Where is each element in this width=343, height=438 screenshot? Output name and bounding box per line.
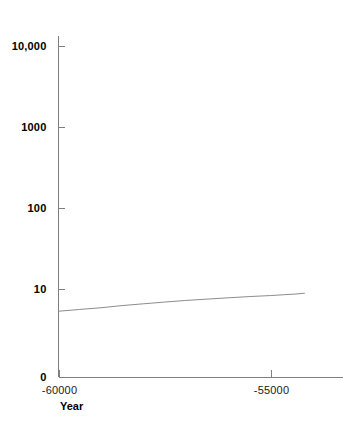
- y-axis-tick-label: 1000: [21, 121, 46, 133]
- chart-figure: 10,0001000100100 -60000-55000 Year: [0, 0, 343, 438]
- x-axis-title: Year: [60, 400, 83, 412]
- y-axis-ticks: [59, 47, 65, 378]
- x-axis-ticks: [60, 370, 272, 377]
- y-axis-tick-label: 10: [34, 283, 47, 295]
- y-axis-tick-label: 0: [40, 371, 46, 383]
- y-axis-tick-label: 100: [28, 202, 47, 214]
- x-axis-tick-label: -55000: [232, 384, 312, 396]
- data-series-line: [59, 293, 305, 311]
- y-axis-tick-label: 10,000: [12, 40, 47, 52]
- axes-group: [59, 36, 343, 378]
- chart-plot-area: [0, 0, 343, 438]
- x-axis-tick-label: -60000: [20, 384, 100, 396]
